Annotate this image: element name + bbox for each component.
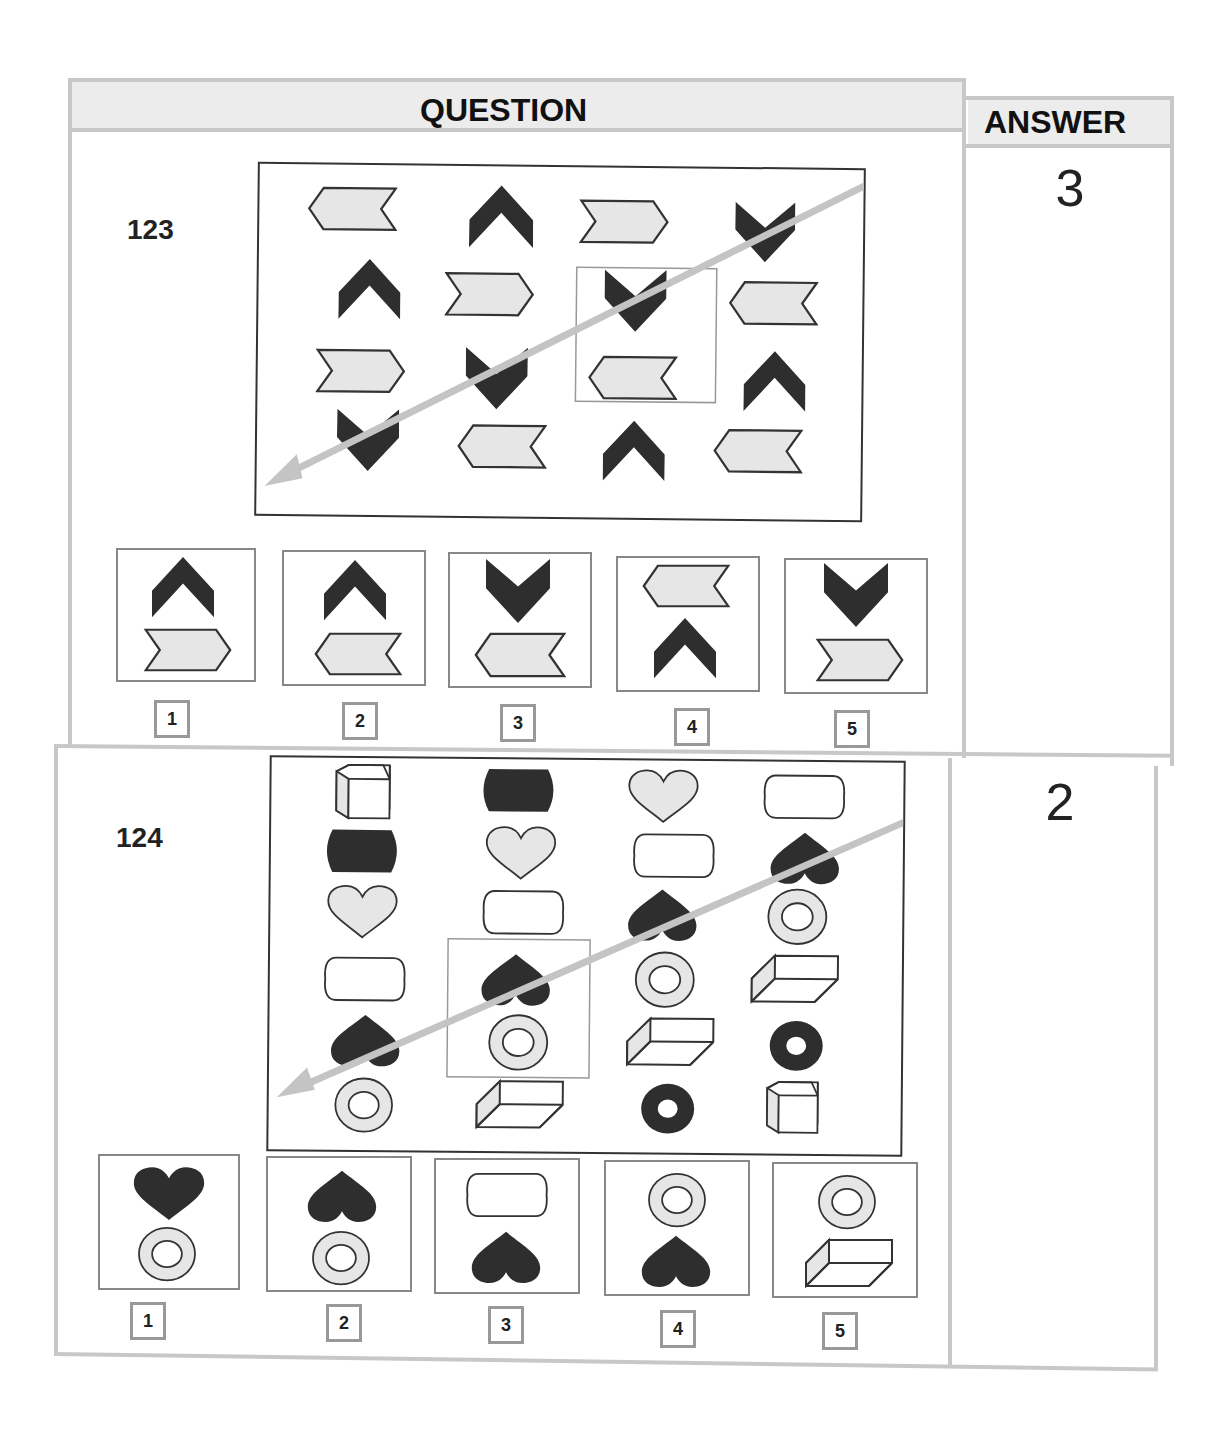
option-card-1[interactable] — [98, 1154, 240, 1290]
answer-value: 2 — [1000, 772, 1120, 832]
question-header: QUESTION — [420, 92, 587, 129]
option-label-4[interactable]: 4 — [660, 1310, 696, 1348]
option-label-5[interactable]: 5 — [834, 710, 870, 748]
arrow-head-icon — [277, 1067, 315, 1097]
option-label-5[interactable]: 5 — [822, 1312, 858, 1350]
answer-header: ANSWER — [984, 104, 1126, 141]
option-card-5[interactable] — [772, 1162, 918, 1298]
light-chevron-right-icon — [317, 350, 404, 392]
light-chevron-right-icon — [581, 201, 668, 243]
header-divider — [70, 128, 966, 132]
table-border-right — [1170, 96, 1174, 766]
option-label-3[interactable]: 3 — [500, 704, 536, 742]
option-card-4[interactable] — [616, 556, 760, 692]
option-card-3[interactable] — [434, 1158, 580, 1294]
answer-value: 3 — [1010, 158, 1130, 218]
header-divider-answer — [964, 144, 1174, 148]
light-chevron-left-icon — [458, 425, 545, 467]
table-border-right-lower — [1154, 766, 1158, 1370]
puzzle-grid — [256, 164, 864, 520]
option-label-1[interactable]: 1 — [154, 700, 190, 738]
option-label-1[interactable]: 1 — [130, 1302, 166, 1340]
column-divider-lower — [948, 758, 952, 1368]
light-chevron-left-icon — [730, 282, 817, 324]
table-border-left — [68, 78, 72, 748]
dark-chevron-up-icon — [603, 420, 666, 481]
option-card-2[interactable] — [266, 1156, 412, 1292]
dark-chevron-down-icon — [337, 409, 400, 472]
question-number: 124 — [116, 822, 163, 854]
light-chevron-left-icon — [309, 188, 396, 230]
puzzle-figure — [266, 755, 905, 1157]
table-border-top — [70, 78, 966, 82]
light-chevron-left-icon — [589, 357, 676, 399]
puzzle-grid — [268, 757, 903, 1155]
option-card-1[interactable] — [116, 548, 256, 682]
arrow-head-icon — [264, 454, 302, 486]
option-card-3[interactable] — [448, 552, 592, 688]
light-chevron-left-icon — [714, 430, 801, 472]
option-card-2[interactable] — [282, 550, 426, 686]
option-label-2[interactable]: 2 — [326, 1304, 362, 1342]
dark-chevron-up-icon — [338, 259, 401, 320]
puzzle-figure — [254, 162, 866, 522]
option-card-5[interactable] — [784, 558, 928, 694]
option-label-4[interactable]: 4 — [674, 708, 710, 746]
table-border-left-lower — [54, 748, 58, 1356]
column-divider — [962, 78, 966, 758]
dark-chevron-up-icon — [743, 351, 806, 412]
dark-chevron-up-icon — [469, 185, 534, 248]
question-number: 123 — [127, 214, 174, 246]
table-border-top-answer — [964, 96, 1174, 100]
light-chevron-right-icon — [446, 273, 533, 315]
option-label-2[interactable]: 2 — [342, 702, 378, 740]
option-card-4[interactable] — [604, 1160, 750, 1296]
option-label-3[interactable]: 3 — [488, 1306, 524, 1344]
